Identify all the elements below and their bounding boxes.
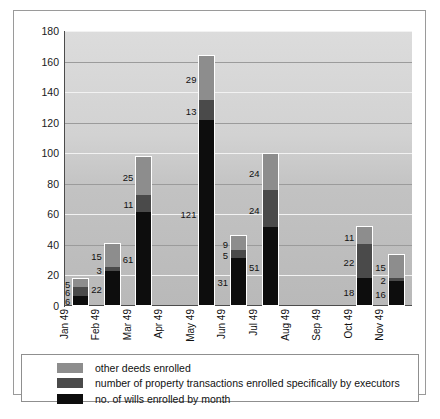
- x-tick-label: Apr 49: [153, 309, 164, 353]
- data-label-other: 29: [186, 75, 197, 84]
- bar-slot-aug-49: [286, 31, 318, 306]
- data-label-wills: 22: [91, 285, 102, 294]
- legend-item-1[interactable]: number of property transactions enrolled…: [57, 376, 418, 392]
- x-tick-nov-49: Nov 49: [380, 309, 412, 355]
- data-label-wills: 6: [65, 297, 70, 306]
- bar-nov-49[interactable]: [388, 254, 405, 306]
- bar-segment-property: [136, 195, 151, 212]
- y-tick-140: 140: [25, 87, 59, 97]
- data-label-other: 15: [375, 263, 386, 272]
- bar-may-49[interactable]: [198, 55, 215, 306]
- bar-oct-49[interactable]: [356, 226, 373, 306]
- data-label-property: 22: [344, 258, 355, 267]
- bar-segment-property: [231, 250, 246, 258]
- bar-jun-49[interactable]: [230, 235, 247, 306]
- x-tick-label: Jul 49: [248, 309, 259, 353]
- data-label-other: 24: [249, 169, 260, 178]
- bar-slot-mar-49: 611125: [128, 31, 160, 306]
- bar-segment-wills: [231, 258, 246, 305]
- data-label-other: 9: [223, 240, 228, 249]
- y-tick-100: 100: [25, 148, 59, 158]
- x-tick-label: Jan 49: [59, 309, 70, 353]
- y-tick-40: 40: [25, 240, 59, 250]
- y-tick-60: 60: [25, 209, 59, 219]
- bar-feb-49[interactable]: [104, 243, 121, 306]
- data-label-property: 2: [380, 276, 385, 285]
- x-tick-label: May 49: [185, 309, 196, 353]
- x-tick-label: Nov 49: [374, 309, 385, 353]
- data-label-property: 11: [123, 200, 133, 209]
- data-label-property: 5: [223, 251, 228, 260]
- bar-segment-property: [263, 190, 278, 227]
- bar-segment-wills: [199, 120, 214, 305]
- y-tick-120: 120: [25, 118, 59, 128]
- y-tick-180: 180: [25, 26, 59, 36]
- x-tick-label: Oct 49: [343, 309, 354, 353]
- data-label-wills: 51: [249, 263, 260, 272]
- x-tick-label: Aug 49: [280, 309, 291, 353]
- y-tick-20: 20: [25, 270, 59, 280]
- bar-segment-other: [105, 244, 120, 267]
- bar-series-group: 6652231561112512113293159512424182211162…: [65, 31, 412, 306]
- data-label-property: 24: [249, 206, 260, 215]
- legend-label: number of property transactions enrolled…: [95, 377, 400, 389]
- bar-mar-49[interactable]: [135, 156, 152, 306]
- bar-jan-49[interactable]: [72, 278, 89, 306]
- bar-jul-49[interactable]: [262, 153, 279, 306]
- bar-slot-apr-49: [160, 31, 192, 306]
- data-label-wills: 31: [217, 278, 228, 287]
- data-label-other: 15: [91, 252, 102, 261]
- bar-segment-other: [357, 227, 372, 244]
- bar-segment-property: [199, 100, 214, 120]
- x-tick-label: Feb 49: [90, 309, 101, 353]
- bar-segment-other: [73, 279, 88, 287]
- data-label-wills: 18: [344, 288, 355, 297]
- data-label-other: 25: [123, 173, 134, 182]
- legend-label: other deeds enrolled: [95, 362, 191, 374]
- bar-segment-other: [136, 157, 151, 195]
- y-tick-160: 160: [25, 57, 59, 67]
- data-label-wills: 121: [181, 210, 197, 219]
- legend-label: no. of wills enrolled by month: [95, 393, 230, 405]
- legend-swatch-icon: [57, 363, 83, 373]
- legend-item-0[interactable]: other deeds enrolled: [57, 360, 418, 376]
- bar-segment-wills: [105, 271, 120, 305]
- bar-segment-property: [73, 287, 88, 296]
- x-tick-label: Jun 49: [216, 309, 227, 353]
- bar-segment-other: [231, 236, 246, 250]
- data-label-property: 13: [186, 107, 197, 116]
- bar-slot-jan-49: 665: [65, 31, 97, 306]
- data-label-property: 3: [97, 266, 102, 275]
- legend-item-2[interactable]: no. of wills enrolled by month: [57, 391, 418, 407]
- bar-slot-nov-49: 16215: [380, 31, 412, 306]
- bar-slot-may-49: 1211329: [191, 31, 223, 306]
- bar-segment-wills: [73, 296, 88, 305]
- legend-swatch-icon: [57, 394, 83, 404]
- x-axis-tick-labels: Jan 49Feb 49Mar 49Apr 49May 49Jun 49Jul …: [65, 309, 412, 355]
- bar-segment-wills: [389, 281, 404, 305]
- bar-slot-jul-49: 512424: [254, 31, 286, 306]
- bar-segment-other: [263, 154, 278, 191]
- x-tick-label: Sep 49: [311, 309, 322, 353]
- bar-segment-wills: [263, 227, 278, 305]
- legend-swatch-icon: [57, 378, 83, 388]
- data-label-wills: 61: [123, 255, 134, 264]
- chart-figure: 180160140120100806040200 665223156111251…: [13, 10, 426, 395]
- bar-segment-other: [199, 56, 214, 100]
- bar-segment-property: [357, 244, 372, 278]
- data-label-wills: 16: [375, 290, 386, 299]
- x-tick-label: Mar 49: [122, 309, 133, 353]
- y-axis-tick-labels: 180160140120100806040200: [14, 11, 65, 326]
- y-tick-0: 0: [25, 301, 59, 311]
- data-label-other: 5: [65, 280, 70, 289]
- bar-segment-wills: [357, 278, 372, 306]
- chart-legend: other deeds enrollednumber of property t…: [21, 354, 419, 402]
- bar-segment-wills: [136, 212, 151, 305]
- bar-segment-other: [389, 255, 404, 278]
- y-tick-80: 80: [25, 179, 59, 189]
- data-label-other: 11: [344, 233, 354, 242]
